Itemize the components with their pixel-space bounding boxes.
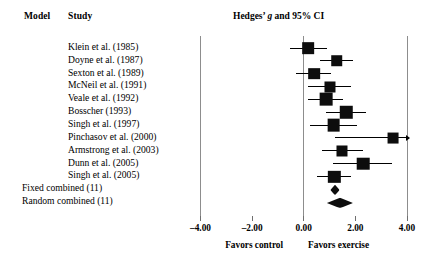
- effect-size-marker: [327, 119, 340, 132]
- effect-size-marker: [337, 145, 348, 156]
- effect-size-marker: [320, 93, 333, 106]
- confidence-interval-arrow: [406, 135, 410, 141]
- axis-tick-label: 4.00: [399, 223, 415, 233]
- axis-tick: [407, 216, 408, 221]
- favors-control-label: Favors control: [225, 240, 283, 250]
- summary-diamond: [330, 185, 339, 195]
- axis-tick-label: 0.00: [296, 223, 312, 233]
- axis-line-null: [303, 36, 304, 216]
- axis-line-right: [407, 36, 408, 216]
- effect-size-marker: [302, 42, 314, 54]
- effect-size-marker: [308, 68, 320, 80]
- effect-size-marker: [328, 170, 340, 182]
- effect-size-marker: [357, 157, 370, 170]
- axis-line-left: [200, 36, 201, 216]
- axis-tick-label: 2.00: [347, 223, 363, 233]
- forest-plot-canvas: –4.00–2.000.002.004.00Favors controlFavo…: [0, 0, 440, 263]
- effect-size-marker: [387, 132, 398, 143]
- effect-size-marker: [331, 55, 343, 67]
- axis-tick: [303, 216, 304, 221]
- forest-plot-figure: Model Study Hedges’ g and 95% CI Klein e…: [0, 0, 440, 263]
- axis-tick-label: –4.00: [190, 223, 211, 233]
- axis-tick-label: –2.00: [242, 223, 263, 233]
- axis-tick: [200, 216, 201, 221]
- summary-diamond: [327, 197, 353, 207]
- effect-size-marker: [340, 106, 352, 118]
- effect-size-marker: [324, 81, 335, 92]
- axis-tick: [252, 216, 253, 221]
- favors-exercise-label: Favors exercise: [308, 240, 369, 250]
- axis-tick: [355, 216, 356, 221]
